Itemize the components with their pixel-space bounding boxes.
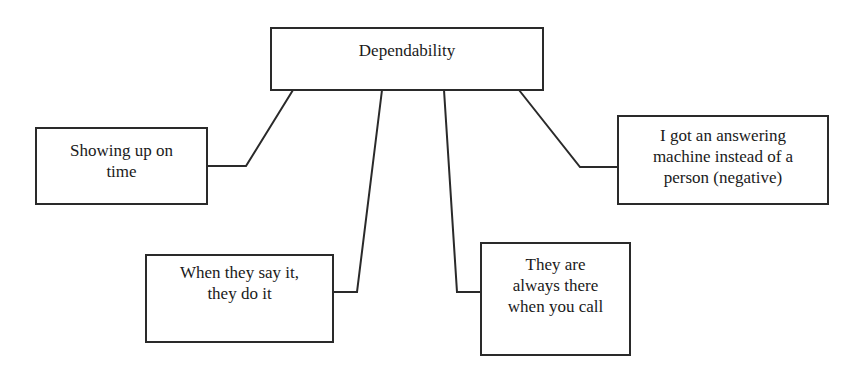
root-node-label: Dependability <box>272 40 542 61</box>
root-node-dependability: Dependability <box>270 27 544 91</box>
child-node-when-they-say-it: When they say it, they do it <box>145 254 334 343</box>
child-node-label: Showing up on time <box>37 140 206 182</box>
connector-always-there <box>444 90 481 292</box>
child-node-label: When they say it, they do it <box>147 262 332 304</box>
connector-showing-up <box>207 90 293 166</box>
concept-map-canvas: Dependability Showing up on time When th… <box>0 0 860 372</box>
child-node-always-there: They are always there when you call <box>480 242 631 356</box>
connector-answering-machine <box>519 90 617 167</box>
connector-when-they-say <box>333 90 382 292</box>
child-node-label: They are always there when you call <box>482 254 629 317</box>
child-node-answering-machine: I got an answering machine instead of a … <box>617 115 829 205</box>
child-node-showing-up-on-time: Showing up on time <box>35 127 208 205</box>
child-node-label: I got an answering machine instead of a … <box>619 125 827 188</box>
